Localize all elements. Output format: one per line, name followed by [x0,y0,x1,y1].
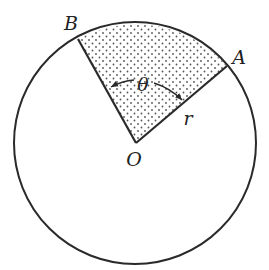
diagram-canvas [0,0,269,270]
label-theta: θ [137,75,148,94]
label-o: O [126,150,142,169]
sector-diagram: B A θ r O [0,0,269,270]
label-r: r [183,109,192,128]
label-b: B [64,14,78,33]
label-a: A [232,48,246,67]
